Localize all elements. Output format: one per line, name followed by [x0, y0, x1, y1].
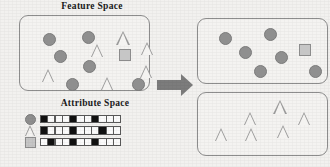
triangle-shape: [277, 125, 289, 138]
triangle-interior: [92, 46, 102, 57]
square-shape: [25, 137, 36, 148]
circle-shape: [309, 65, 322, 78]
figure-root: Feature Space Attribute Space: [0, 0, 330, 167]
triangle-interior: [246, 130, 256, 141]
circle-shape: [43, 33, 56, 46]
square-icon: [25, 137, 37, 148]
circle-shape: [219, 32, 232, 45]
circle-shape: [25, 114, 36, 125]
triangle-shape: [141, 42, 153, 55]
triangle-shape: [215, 128, 227, 141]
triangle-interior: [118, 33, 128, 45]
circle-shape: [82, 31, 95, 44]
attribute-row: [40, 126, 120, 135]
triangle-interior: [245, 114, 255, 125]
triangle-interior: [216, 130, 226, 141]
triangle-shape: [42, 69, 54, 82]
triangle-shape: [101, 77, 113, 90]
circle-shape: [239, 46, 252, 59]
circle-shape: [132, 78, 145, 91]
triangle-shape: [116, 31, 130, 45]
attribute-row: [40, 115, 120, 124]
triangle-shape: [298, 112, 310, 125]
circle-shape: [254, 65, 267, 78]
circle-icon: [25, 114, 37, 125]
circle-shape: [264, 28, 277, 41]
circle-shape: [66, 78, 79, 91]
square-shape: [299, 44, 311, 56]
triangle-shape: [273, 100, 287, 114]
triangle-shape: [140, 65, 152, 78]
triangle-interior: [102, 79, 112, 90]
triangle-interior: [26, 127, 34, 136]
triangle-shape: [91, 44, 103, 57]
triangle-interior: [142, 44, 152, 55]
transformation-arrow-head: [181, 74, 193, 96]
attribute-space-title: Attribute Space: [40, 98, 150, 108]
circle-shape: [54, 50, 67, 63]
square-shape: [119, 49, 131, 61]
triangle-shape: [25, 125, 35, 136]
triangle-interior: [43, 71, 53, 82]
transformation-arrow-shaft: [157, 80, 181, 90]
triangle-interior: [278, 127, 288, 138]
attribute-cell-off: [113, 115, 121, 124]
circle-shape: [83, 60, 96, 73]
triangle-interior: [141, 67, 151, 78]
triangle-icon: [25, 125, 37, 136]
feature-space-title: Feature Space: [42, 1, 142, 11]
triangle-shape: [244, 112, 256, 125]
attribute-row: [40, 138, 120, 147]
circle-shape: [275, 51, 288, 64]
triangle-interior: [299, 114, 309, 125]
attribute-cell-off: [113, 126, 121, 135]
attribute-cell-off: [113, 138, 121, 147]
triangle-shape: [245, 128, 257, 141]
triangle-interior: [275, 102, 285, 114]
